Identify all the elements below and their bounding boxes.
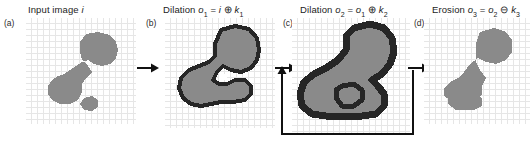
panel-c-caption-var: o (335, 4, 340, 15)
panel-a-caption: Input image i (28, 4, 84, 15)
panel-d-image (424, 18, 530, 124)
panel-c-operator: ⊕ (368, 4, 376, 15)
panel-a-caption-var: i (81, 4, 83, 15)
panel-letter-a: (a) (4, 18, 14, 28)
panel-c-equals: = (347, 4, 353, 15)
morphology-figure: Input image i (a) Dilation o1 = i ⊕ k1 (… (0, 0, 530, 146)
panel-b-operator: ⊕ (224, 4, 232, 15)
panel-d-operator: ⊖ (500, 4, 508, 15)
panel-a-caption-prefix: Input image (28, 4, 81, 15)
panel-b-caption-prefix: Dilation (163, 4, 198, 15)
panel-b-equals: = (210, 4, 216, 15)
panel-b-caption: Dilation o1 = i ⊕ k1 (163, 4, 243, 17)
panel-d-caption: Erosion o3 = o2 ⊖ k3 (432, 4, 520, 17)
panel-a-image (26, 18, 136, 124)
panel-d-operand-a: o (488, 4, 493, 15)
panel-b-operand-a: i (219, 4, 221, 15)
panel-b-caption-var: o (198, 4, 203, 15)
panel-b-image (165, 18, 275, 128)
panel-c-operand-b: k (379, 4, 384, 15)
panel-d-caption-prefix: Erosion (432, 4, 468, 15)
panel-letter-d: (d) (414, 18, 424, 28)
panel-d-equals: = (480, 4, 486, 15)
panel-c-caption: Dilation o2 = o1 ⊕ k2 (300, 4, 388, 17)
feedback-loop (276, 62, 422, 142)
arrow-a-to-b (137, 62, 159, 74)
panel-letter-b: (b) (146, 18, 156, 28)
panel-c-caption-prefix: Dilation (300, 4, 335, 15)
